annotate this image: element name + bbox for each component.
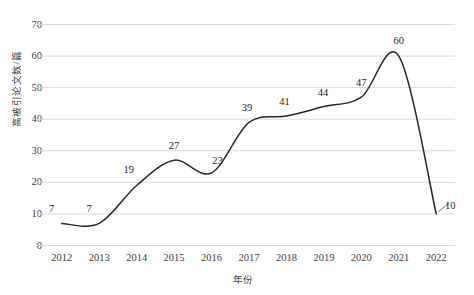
data-label: 44 <box>306 87 340 98</box>
data-series-line <box>62 52 437 226</box>
data-label: 19 <box>112 164 146 175</box>
data-label: 23 <box>201 155 235 166</box>
data-label: 60 <box>382 35 416 46</box>
data-label: 47 <box>344 77 378 88</box>
data-label: 10 <box>433 200 467 211</box>
line-chart: 高被引论文数/篇 年份 010203040506070 201220132014… <box>0 0 474 295</box>
data-label: 27 <box>157 140 191 151</box>
data-label: 39 <box>230 102 264 113</box>
data-label: 7 <box>72 203 106 214</box>
data-label: 41 <box>267 96 301 107</box>
data-label: 7 <box>35 203 69 214</box>
